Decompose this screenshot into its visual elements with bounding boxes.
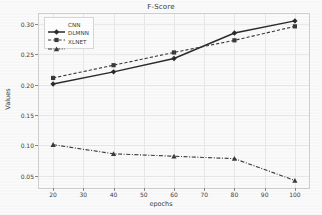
legend-swatch-icon [48, 38, 65, 46]
gridline-vertical [144, 14, 145, 188]
gridline-vertical [234, 14, 235, 188]
y-tick-label: 0.05 [6, 172, 34, 179]
legend-item-cnn[interactable]: CNN [48, 21, 89, 29]
x-tick-label: 60 [170, 191, 178, 198]
y-tick-mark [35, 145, 38, 146]
legend-item-label: DLMNN [68, 30, 89, 36]
y-tick-mark [35, 85, 38, 86]
y-tick-mark [35, 54, 38, 55]
gridline-vertical [204, 14, 205, 188]
gridline-vertical [295, 14, 296, 188]
gridline-vertical [114, 14, 115, 188]
legend-swatch-icon [48, 21, 65, 29]
gridline-vertical [265, 14, 266, 188]
gridline-horizontal [39, 85, 309, 86]
x-tick-label: 40 [110, 191, 118, 198]
x-tick-label: 80 [231, 191, 239, 198]
legend-item-label: XLNET [68, 39, 87, 45]
legend-item-xlnet[interactable]: XLNET [48, 38, 89, 46]
chart-legend: CNNDLMNNXLNET [44, 17, 94, 49]
legend-swatch-icon [48, 29, 65, 37]
x-tick-label: 90 [261, 191, 269, 198]
legend-item-dlmnn[interactable]: DLMNN [48, 29, 89, 37]
chart-figure: F-Score Values epochs 203040506070809010… [0, 0, 322, 215]
gridline-horizontal [39, 176, 309, 177]
x-tick-label: 70 [200, 191, 208, 198]
y-tick-label: 0.10 [6, 142, 34, 149]
legend-item-label: CNN [68, 22, 81, 28]
x-tick-label: 100 [289, 191, 300, 198]
x-tick-label: 20 [49, 191, 57, 198]
x-tick-label: 30 [80, 191, 88, 198]
y-tick-label: 0.15 [6, 111, 34, 118]
y-tick-mark [35, 176, 38, 177]
y-tick-mark [35, 115, 38, 116]
x-tick-label: 50 [140, 191, 148, 198]
gridline-horizontal [39, 115, 309, 116]
gridline-vertical [174, 14, 175, 188]
x-axis-label: epochs [0, 200, 322, 208]
y-tick-label: 0.25 [6, 51, 34, 58]
y-tick-label: 0.20 [6, 81, 34, 88]
chart-title: F-Score [0, 3, 322, 11]
gridline-horizontal [39, 145, 309, 146]
gridline-horizontal [39, 54, 309, 55]
y-tick-mark [35, 24, 38, 25]
y-tick-label: 0.30 [6, 20, 34, 27]
